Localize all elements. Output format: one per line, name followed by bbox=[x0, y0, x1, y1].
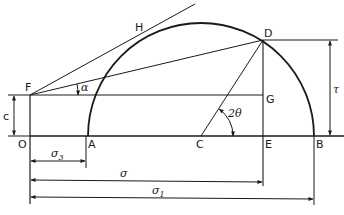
line-FD bbox=[30, 40, 263, 95]
point-label-F: F bbox=[25, 81, 31, 94]
two-theta-label: 2θ bbox=[227, 107, 242, 120]
tau-label: τ bbox=[333, 83, 340, 96]
sigma-label: σ bbox=[120, 167, 128, 180]
sigma1-label: σ1 bbox=[152, 184, 165, 199]
sigma-dimension-arrow bbox=[31, 180, 262, 182]
point-label-O: O bbox=[18, 138, 27, 151]
sigma1-dimension-arrow bbox=[31, 197, 313, 199]
point-label-E: E bbox=[265, 138, 272, 151]
point-label-D: D bbox=[264, 27, 272, 40]
mohr-circle-diagram: O A C E B D F G H α 2θ τ c σ3 σ σ1 bbox=[0, 0, 344, 215]
radius-CD bbox=[201, 40, 263, 136]
sigma3-label: σ3 bbox=[51, 147, 64, 162]
tangent-line-FH bbox=[30, 4, 195, 95]
point-label-A: A bbox=[88, 138, 96, 151]
point-label-H: H bbox=[135, 21, 143, 34]
alpha-angle-arc bbox=[77, 84, 78, 95]
point-label-G: G bbox=[266, 93, 275, 106]
c-label: c bbox=[3, 110, 9, 123]
point-label-B: B bbox=[316, 138, 324, 151]
point-label-C: C bbox=[196, 138, 204, 151]
alpha-label: α bbox=[81, 81, 89, 94]
